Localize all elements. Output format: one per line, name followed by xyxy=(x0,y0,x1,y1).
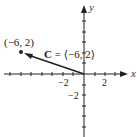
vector-diagram: x y −2 2 −2 (−6, 2) C = ⟨−6, 2⟩ xyxy=(0,0,137,137)
y-axis-label: y xyxy=(88,1,94,13)
x-axis-arrow-icon xyxy=(120,71,128,77)
point-marker xyxy=(19,50,23,54)
point-label: (−6, 2) xyxy=(4,36,34,49)
x-tick-label-2: 2 xyxy=(102,77,107,88)
vector-label: C = ⟨−6, 2⟩ xyxy=(44,48,95,60)
y-tick-label-neg2: −2 xyxy=(68,90,79,101)
vector-name: C xyxy=(44,48,52,60)
x-axis-label: x xyxy=(130,67,136,79)
vector-components: = ⟨−6, 2⟩ xyxy=(52,48,95,60)
x-tick-label-neg2: −2 xyxy=(58,77,69,88)
y-axis-arrow-icon xyxy=(81,5,87,13)
vector-arrowhead-icon xyxy=(24,53,33,59)
y-axis xyxy=(81,5,87,137)
